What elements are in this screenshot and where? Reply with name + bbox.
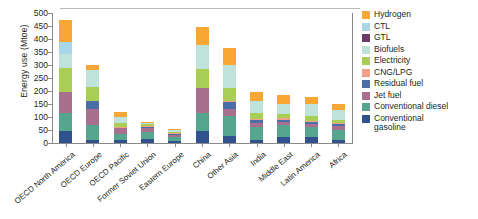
bar-segment	[59, 92, 72, 113]
x-axis-tick-mark	[284, 143, 285, 147]
legend-item: Jet fuel	[362, 91, 478, 101]
y-axis-tick-label: 300	[34, 61, 48, 70]
legend-item: Biofuels	[362, 45, 478, 55]
x-axis-tick-label: Eastern Europe	[27, 150, 186, 219]
legend-swatch-icon	[362, 69, 370, 77]
x-axis-tick-mark	[93, 143, 94, 147]
y-axis-tick-mark	[48, 91, 52, 92]
stacked-bar-chart: Energy use (Mtoe) 0501001502002503003504…	[0, 0, 478, 219]
legend-item-label: Conventionalgasoline	[374, 114, 424, 133]
x-axis-tick-label: Former Soviet Union	[0, 150, 158, 219]
bar-segment	[59, 68, 72, 91]
legend-swatch-icon	[362, 115, 370, 123]
y-axis-tick-label: 200	[34, 87, 48, 96]
bar-segment	[196, 131, 209, 143]
legend-swatch-icon	[362, 11, 370, 19]
bar-segment	[223, 88, 236, 101]
legend-item-label: CNG/LPG	[374, 68, 412, 78]
legend-swatch-icon	[362, 46, 370, 54]
x-axis-tick-mark	[229, 143, 230, 147]
bar-segment	[223, 136, 236, 143]
bar-oecd-europe	[86, 65, 99, 143]
legend-item: Conventionalgasoline	[362, 114, 478, 133]
legend-item-label: CTL	[374, 22, 390, 32]
y-axis-tick-label: 50	[39, 126, 48, 135]
legend-item-label: Jet fuel	[374, 91, 401, 101]
plot-area: 050100150200250300350400450500	[52, 13, 352, 143]
bar-middle-east	[277, 95, 290, 143]
y-axis-tick-mark	[48, 52, 52, 53]
x-axis-tick-mark	[338, 143, 339, 147]
bar-former-soviet-union	[141, 122, 154, 144]
bar-segment	[86, 125, 99, 140]
legend-item-label: Electricity	[374, 56, 410, 66]
x-axis-tick-mark	[120, 143, 121, 147]
chart-legend: HydrogenCTLGTLBiofuelsElectricityCNG/LPG…	[362, 10, 478, 135]
bar-segment	[277, 95, 290, 103]
bar-segment	[250, 92, 263, 101]
bar-segment	[250, 101, 263, 113]
legend-item-label: Hydrogen	[374, 10, 411, 20]
bar-segment	[196, 27, 209, 44]
y-axis-tick-mark	[48, 65, 52, 66]
bar-segment	[196, 69, 209, 88]
x-axis-tick-label: Africa	[190, 150, 349, 219]
bar-segment	[223, 102, 236, 109]
x-axis-tick-mark	[66, 143, 67, 147]
bar-segment	[305, 104, 318, 116]
x-axis-tick-mark	[147, 143, 148, 147]
bar-segment	[141, 132, 154, 140]
bar-segment	[332, 130, 345, 140]
bar-segment	[277, 125, 290, 137]
x-axis-tick-mark	[311, 143, 312, 147]
legend-item: CNG/LPG	[362, 68, 478, 78]
bar-segment	[59, 113, 72, 131]
bar-segment	[86, 101, 99, 109]
y-axis-tick-label: 350	[34, 48, 48, 57]
x-axis-tick-mark	[202, 143, 203, 147]
bar-segment	[305, 97, 318, 104]
y-axis-tick-label: 100	[34, 113, 48, 122]
y-axis-tick-mark	[48, 78, 52, 79]
y-axis-tick-label: 500	[34, 9, 48, 18]
bar-india	[250, 92, 263, 143]
legend-item: GTL	[362, 33, 478, 43]
bar-segment	[223, 116, 236, 136]
y-axis-tick-label: 450	[34, 22, 48, 31]
bar-segment	[86, 109, 99, 125]
legend-item-label: GTL	[374, 33, 391, 43]
y-axis-tick-label: 250	[34, 74, 48, 83]
bar-africa	[332, 104, 345, 143]
y-axis-tick-mark	[48, 143, 52, 144]
y-axis-tick-mark	[48, 13, 52, 14]
x-axis-tick-mark	[175, 143, 176, 147]
bar-segment	[196, 88, 209, 113]
bar-segment	[250, 127, 263, 139]
legend-swatch-icon	[362, 92, 370, 100]
x-axis-tick-label: Latin America	[163, 150, 322, 219]
y-axis-tick-mark	[48, 104, 52, 105]
bar-segment	[86, 87, 99, 101]
bar-oecd-pacific	[114, 112, 127, 143]
y-axis-title: Energy use (Mtoe)	[19, 0, 29, 131]
legend-item: Electricity	[362, 56, 478, 66]
legend-item: Conventional diesel	[362, 102, 478, 112]
bar-latin-america	[305, 97, 318, 143]
bar-segment	[59, 131, 72, 143]
bar-segment	[277, 104, 290, 114]
legend-swatch-icon	[362, 57, 370, 65]
bar-other-asia	[223, 48, 236, 143]
legend-swatch-icon	[362, 34, 370, 42]
bar-segment	[196, 45, 209, 70]
legend-item-label: Biofuels	[374, 45, 404, 55]
y-axis-tick-label: 150	[34, 100, 48, 109]
x-axis-tick-mark	[257, 143, 258, 147]
legend-swatch-icon	[362, 23, 370, 31]
bar-segment	[305, 127, 318, 137]
plot-right-border	[352, 13, 353, 144]
bar-segment	[223, 48, 236, 65]
legend-item-label: Conventional diesel	[374, 102, 448, 112]
bar-segment	[86, 70, 99, 87]
bar-eastern-europe	[168, 129, 181, 143]
y-axis-tick-mark	[48, 39, 52, 40]
